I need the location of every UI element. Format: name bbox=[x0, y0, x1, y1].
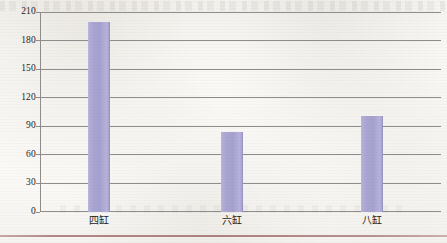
y-tick-mark bbox=[36, 183, 40, 184]
y-tick-label: 210 bbox=[2, 7, 36, 17]
y-tick-mark bbox=[36, 40, 40, 41]
y-tick-label-wrap: 210 bbox=[0, 7, 36, 17]
y-tick-mark bbox=[36, 154, 40, 155]
bar bbox=[221, 132, 243, 212]
chart-page: 0306090120150180210 四缸六缸八缸 bbox=[0, 0, 447, 243]
y-tick-label-wrap: 30 bbox=[0, 178, 36, 188]
y-tick-label: 0 bbox=[2, 207, 36, 217]
x-tick-label: 四缸 bbox=[64, 216, 134, 226]
y-tick-mark bbox=[36, 12, 40, 13]
y-tick-mark bbox=[36, 97, 40, 98]
y-tick-mark bbox=[36, 69, 40, 70]
y-tick-label-wrap: 180 bbox=[0, 36, 36, 46]
y-tick-label-wrap: 90 bbox=[0, 121, 36, 131]
x-tick-label: 六缸 bbox=[197, 216, 267, 226]
y-tick-mark bbox=[36, 126, 40, 127]
footer-rule bbox=[0, 235, 447, 237]
bar bbox=[88, 22, 110, 212]
y-tick-label: 120 bbox=[2, 93, 36, 103]
bleed-through-text-top bbox=[0, 1, 447, 11]
y-tick-label: 30 bbox=[2, 178, 36, 188]
x-tick-label: 八缸 bbox=[337, 216, 407, 226]
y-tick-label-wrap: 0 bbox=[0, 207, 36, 217]
y-tick-label: 180 bbox=[2, 36, 36, 46]
y-tick-mark bbox=[36, 212, 40, 213]
bar bbox=[361, 116, 383, 212]
y-tick-label-wrap: 60 bbox=[0, 150, 36, 160]
y-tick-label: 150 bbox=[2, 64, 36, 74]
y-tick-label-wrap: 150 bbox=[0, 64, 36, 74]
y-tick-label: 90 bbox=[2, 121, 36, 131]
y-tick-label: 60 bbox=[2, 150, 36, 160]
y-tick-label-wrap: 120 bbox=[0, 93, 36, 103]
